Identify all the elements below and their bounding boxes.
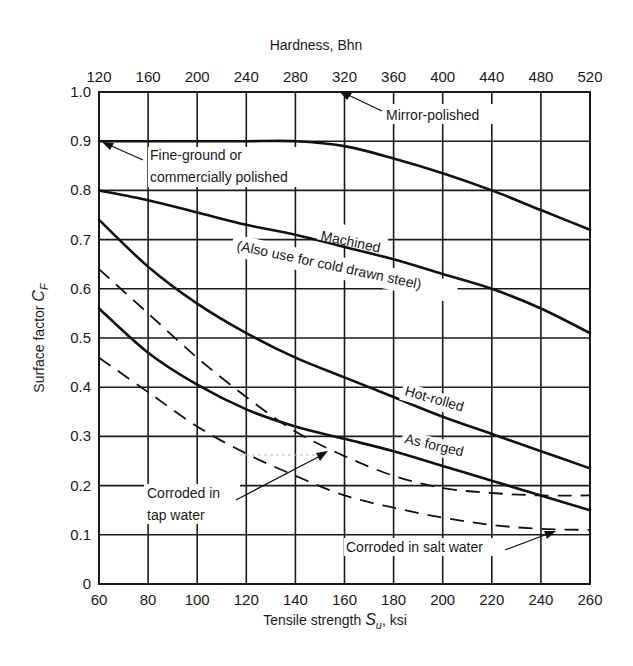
svg-text:Corroded in salt water: Corroded in salt water [346,539,483,555]
secondary-x-tick-label: 280 [283,68,308,85]
svg-text:(Also use for cold drawn steel: (Also use for cold drawn steel) [235,237,423,292]
x-axis-title: Tensile strength Su, ksi [263,611,407,631]
secondary-x-tick-label: 160 [136,68,161,85]
x-tick-label: 180 [381,591,406,608]
x-tick-label: 220 [479,591,504,608]
y-tick-label: 0.5 [70,329,91,346]
x-tick-label: 60 [91,591,108,608]
secondary-x-tick-label: 520 [577,68,602,85]
y-tick-label: 0.7 [70,231,91,248]
secondary-x-tick-label: 320 [332,68,357,85]
svg-text:Mirror-polished: Mirror-polished [386,107,479,123]
x-tick-label: 200 [430,591,455,608]
y-tick-label: 0.4 [70,378,91,395]
secondary-x-tick-label: 400 [430,68,455,85]
secondary-x-axis-ticks: 120160200240280320360400440480520 [86,68,602,85]
x-tick-label: 240 [528,591,553,608]
surface-factor-chart: 00.10.20.30.40.50.60.70.80.91.0 60801001… [0,0,633,666]
secondary-x-axis-title: Hardness, Bhn [270,37,363,53]
y-tick-label: 0 [83,575,91,592]
secondary-x-tick-label: 200 [185,68,210,85]
secondary-x-tick-label: 240 [234,68,259,85]
annotation-mirror-polished: Mirror-polished [339,91,498,124]
x-tick-label: 80 [140,591,157,608]
svg-text:Corroded in: Corroded in [147,485,220,501]
y-tick-label: 0.6 [70,280,91,297]
x-tick-label: 120 [234,591,259,608]
y-tick-label: 0.9 [70,132,91,149]
secondary-x-tick-label: 440 [479,68,504,85]
x-tick-label: 100 [185,591,210,608]
annotation-corroded-tap-water: Corroded in tap water [144,451,328,524]
y-tick-label: 0.3 [70,427,91,444]
y-tick-label: 1.0 [70,83,91,100]
x-axis-ticks: 6080100120140160180200220240260 [91,591,603,608]
y-tick-label: 0.2 [70,477,91,494]
secondary-x-tick-label: 360 [381,68,406,85]
y-tick-label: 0.1 [70,526,91,543]
y-axis-ticks: 00.10.20.30.40.50.60.70.80.91.0 [70,83,91,592]
secondary-x-tick-label: 120 [86,68,111,85]
secondary-x-tick-label: 480 [528,68,553,85]
svg-text:commercially polished: commercially polished [150,169,288,185]
annotation-fine-ground: Fine-ground or commercially polished [102,142,310,187]
svg-text:Fine-ground or: Fine-ground or [150,147,242,163]
y-axis-title: Surface factor CF [30,282,50,393]
annotation-as-forged: As forged [400,430,474,464]
x-tick-label: 160 [332,591,357,608]
x-tick-label: 140 [283,591,308,608]
x-tick-label: 260 [577,591,602,608]
y-tick-label: 0.8 [70,181,91,198]
svg-text:tap water: tap water [147,507,205,523]
